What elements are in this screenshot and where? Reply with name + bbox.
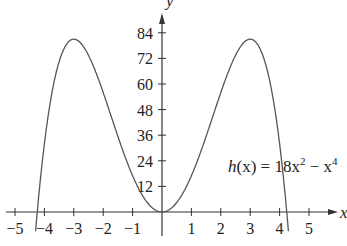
y-tick-label: 84: [137, 25, 153, 42]
function-label: h(x) = 18x2 − x4: [228, 155, 338, 176]
x-tick-label: −4: [36, 220, 53, 237]
x-tick-label: 2: [217, 220, 225, 237]
y-tick-label: 48: [137, 102, 153, 119]
y-axis-arrow: [159, 13, 165, 24]
y-tick-label: 60: [137, 76, 153, 93]
y-tick-label: 36: [137, 127, 153, 144]
chart: xy−5−4−3−2−11234512243648607284h(x) = 18…: [0, 0, 347, 246]
x-tick-label: −5: [6, 220, 23, 237]
x-axis-label: x: [339, 203, 347, 222]
y-tick-label: 12: [137, 178, 153, 195]
y-tick-label: 72: [137, 50, 153, 67]
y-tick-label: 24: [137, 153, 153, 170]
y-axis-label: y: [164, 0, 174, 10]
x-tick-label: 1: [187, 220, 195, 237]
x-tick-label: −2: [95, 220, 112, 237]
x-tick-label: 3: [246, 220, 254, 237]
x-tick-label: −1: [124, 220, 141, 237]
x-tick-label: 5: [305, 220, 313, 237]
x-tick-label: −3: [65, 220, 82, 237]
plot-area: xy−5−4−3−2−11234512243648607284h(x) = 18…: [0, 0, 347, 246]
x-axis-arrow: [328, 209, 338, 215]
x-tick-label: 4: [276, 220, 284, 237]
